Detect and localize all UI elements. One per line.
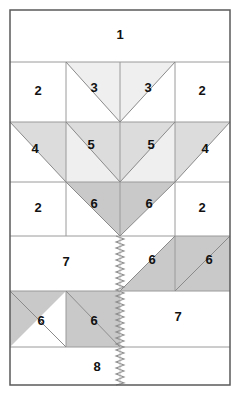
- block-canvas: 12332455426627666678: [0, 0, 240, 395]
- quilt-block-diagram: 12332455426627666678: [0, 0, 240, 395]
